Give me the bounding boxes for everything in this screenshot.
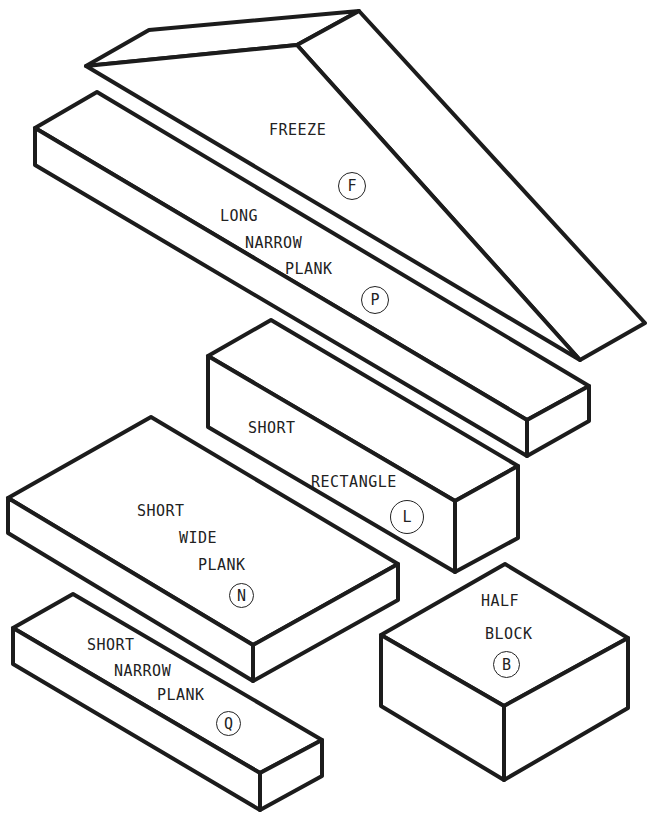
short-narrow-plank-label-1: SHORT: [87, 638, 135, 653]
half-block-label-2: BLOCK: [485, 627, 533, 642]
long-narrow-plank-label-3: PLANK: [285, 262, 333, 277]
freeze-label: FREEZE: [269, 123, 326, 138]
short-wide-plank-code-badge: N: [229, 583, 254, 608]
half-block-code-badge: B: [493, 651, 520, 678]
short-narrow-plank-label-2: NARROW: [114, 664, 171, 679]
short-wide-plank-label-1: SHORT: [137, 504, 185, 519]
short-rectangle-label-2: RECTANGLE: [311, 475, 397, 490]
long-narrow-plank-label-1: LONG: [220, 209, 258, 224]
short-rectangle-code-badge: L: [390, 500, 424, 534]
short-narrow-plank-label-3: PLANK: [157, 688, 205, 703]
long-narrow-plank-label-2: NARROW: [245, 236, 302, 251]
half-block-label-1: HALF: [481, 594, 519, 609]
short-wide-plank-label-2: WIDE: [179, 531, 217, 546]
short-rectangle-label-1: SHORT: [248, 421, 296, 436]
long-narrow-plank-code-badge: P: [361, 286, 389, 314]
freeze-code-badge: F: [338, 172, 366, 200]
short-wide-plank-label-3: PLANK: [198, 558, 246, 573]
short-narrow-plank-code-badge: Q: [216, 711, 241, 736]
